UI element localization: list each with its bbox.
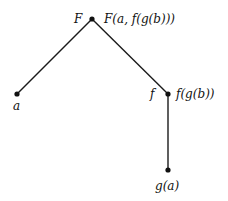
- node-root-symbol: F: [73, 12, 83, 26]
- node-f-term: f(g(b)): [175, 87, 215, 101]
- edge-root-a: [17, 19, 92, 94]
- node-root: [89, 16, 94, 21]
- node-root-term: F(a, f(g(b))): [103, 12, 175, 26]
- node-f: [165, 91, 170, 96]
- term-tree-diagram: F F(a, f(g(b))) a f f(g(b)) g(a): [0, 0, 228, 201]
- node-f-symbol: f: [149, 87, 157, 101]
- node-a: [14, 91, 19, 96]
- edge-root-f: [92, 19, 168, 94]
- node-a-symbol: a: [13, 99, 20, 113]
- node-g-term: g(a): [155, 179, 180, 193]
- node-g: [165, 167, 170, 172]
